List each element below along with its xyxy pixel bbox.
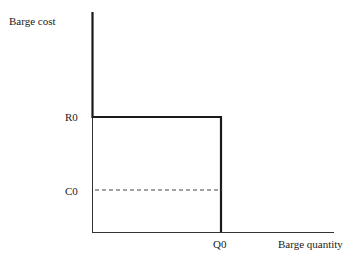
- tick-label-c0: C0: [65, 185, 78, 197]
- diagram-canvas: [0, 0, 350, 259]
- supply-curve: [93, 12, 222, 232]
- tick-label-q0: Q0: [213, 238, 226, 250]
- y-axis-label: Barge cost: [9, 15, 56, 27]
- tick-label-r0: R0: [65, 111, 78, 123]
- x-axis-label: Barge quantity: [278, 238, 343, 250]
